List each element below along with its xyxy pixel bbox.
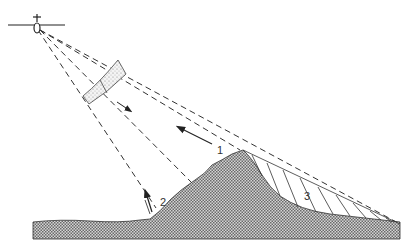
label-3: 3: [304, 190, 310, 202]
mountain-terrain: [33, 150, 400, 239]
aircraft-icon: [8, 14, 65, 33]
ray-near: [38, 30, 156, 208]
label-2: 2: [160, 196, 166, 208]
radar-geometry-diagram: 1 2 3: [0, 0, 405, 251]
ray-mid-far: [40, 30, 240, 150]
arrow-2: [146, 193, 152, 212]
radar-pulse-band: [83, 60, 126, 104]
ray-mid: [40, 30, 195, 186]
label-1: 1: [217, 144, 223, 156]
